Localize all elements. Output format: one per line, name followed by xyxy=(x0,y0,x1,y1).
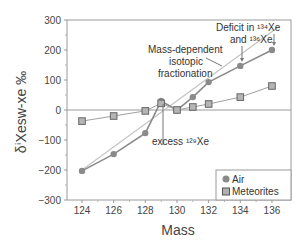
annotation-deficit-line2: and ¹³⁶Xe xyxy=(230,34,273,45)
legend-air-label: Air xyxy=(232,174,245,185)
meteorites-data-point xyxy=(174,107,181,114)
annotation-fractionation-line2: isotopic xyxy=(169,56,203,67)
chart-svg: 3002001000−100−200−300 12412612813013213… xyxy=(0,0,306,250)
air-data-point xyxy=(190,94,196,100)
x-tick-label: 134 xyxy=(232,205,249,216)
air-data-point xyxy=(110,151,116,157)
x-tick-label: 124 xyxy=(74,205,91,216)
air-data-point xyxy=(237,63,243,69)
x-tick-label: 128 xyxy=(137,205,154,216)
x-tick-label: 130 xyxy=(169,205,186,216)
y-tick-label: −100 xyxy=(38,135,61,146)
legend-meteorites-label: Meteorites xyxy=(232,186,279,197)
y-tick-label: 200 xyxy=(44,45,61,56)
y-tick-label: −300 xyxy=(38,195,61,206)
legend-air-marker-icon xyxy=(223,176,230,183)
meteorites-data-point xyxy=(79,118,86,125)
y-axis-title: δⁱXesw-xe ‰ xyxy=(13,71,29,153)
meteorites-data-point xyxy=(142,108,149,115)
y-tick-label: −200 xyxy=(38,165,61,176)
legend-meteorites-marker-icon xyxy=(223,188,230,195)
meteorites-data-point xyxy=(110,113,117,120)
chart-container: 3002001000−100−200−300 12412612813013213… xyxy=(0,0,306,250)
deficit-136-arrowhead-icon xyxy=(272,42,276,46)
annotation-fractionation-line1: Mass-dependent xyxy=(148,44,223,55)
meteorites-data-point xyxy=(205,101,212,108)
air-data-point xyxy=(269,47,275,53)
legend: Air Meteorites xyxy=(216,170,291,200)
fractionation-pointer xyxy=(206,58,222,66)
x-tick-label: 126 xyxy=(105,205,122,216)
annotation-excess-129: excess ¹²⁹Xe xyxy=(152,136,210,147)
y-axis: 3002001000−100−200−300 xyxy=(38,15,67,206)
y-tick-label: 100 xyxy=(44,75,61,86)
meteorites-data-point xyxy=(237,94,244,101)
x-axis: 124126128130132134136 xyxy=(74,200,281,216)
x-axis-title: Mass xyxy=(161,222,194,238)
x-tick-label: 132 xyxy=(200,205,217,216)
annotation-deficit-line1: Deficit in ¹³⁴Xe xyxy=(216,22,281,33)
meteorites-data-point xyxy=(269,83,276,90)
deficit-134-arrowhead-icon xyxy=(240,58,244,62)
annotation-fractionation-line3: fractionation xyxy=(158,68,212,79)
y-tick-label: 0 xyxy=(55,105,61,116)
air-data-point xyxy=(205,79,211,85)
meteorites-data-point xyxy=(190,104,197,111)
air-data-point xyxy=(142,130,148,136)
air-data-point xyxy=(79,168,85,174)
x-tick-label: 136 xyxy=(264,205,281,216)
y-tick-label: 300 xyxy=(44,15,61,26)
